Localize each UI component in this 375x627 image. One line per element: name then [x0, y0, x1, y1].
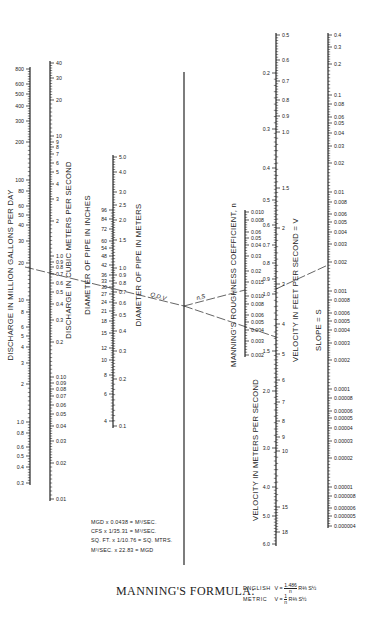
tick-label: 0.0005 — [334, 318, 350, 324]
tick-label: 0.4 — [17, 464, 24, 470]
tick-label: 8 — [21, 309, 24, 315]
tick-label: 0.004 — [334, 229, 347, 235]
conversion-note: M³/SEC. x 22.83 = MGD — [91, 546, 172, 555]
tick-label: 0.00004 — [334, 425, 353, 431]
tick-label: 2.5 — [119, 202, 126, 208]
axis-title-diameter-in: DIAMETER OF PIPE IN INCHES — [83, 195, 92, 315]
tick-label: 0.0004 — [334, 327, 350, 333]
tick-label: 0.04 — [56, 423, 66, 429]
tick-label: 0.0001 — [334, 386, 350, 392]
tick-label: 2 — [282, 225, 285, 231]
tick-label: 2 — [56, 218, 59, 224]
tick-label: 0.4 — [263, 165, 270, 171]
tick-label: 20 — [56, 97, 62, 103]
tick-label: 0.05 — [56, 411, 66, 417]
tick-label: 10 — [18, 297, 24, 303]
tick-label: 20 — [18, 260, 24, 266]
tick-label: 0.2 — [56, 339, 63, 345]
tick-label: 0.000006 — [334, 505, 356, 511]
tick-label: 15 — [282, 504, 288, 510]
tick-label: 0.7 — [119, 289, 126, 295]
tick-label: 0.008 — [251, 301, 264, 307]
turning-label-qdv: Q,D,V — [150, 291, 168, 302]
formula-english-label: ENGLISH — [243, 584, 273, 593]
tick-label: 0.0003 — [334, 340, 350, 346]
tick-label: 0.2 — [263, 70, 270, 76]
axis-title-slope-s: SLOPE = S — [314, 309, 323, 351]
tick-label: 0.005 — [251, 319, 264, 325]
tick-label: 0.1 — [119, 423, 126, 429]
tick-label: 0.08 — [334, 101, 344, 107]
tick-label: 18 — [282, 529, 288, 535]
tick-label: 0.3 — [119, 348, 126, 354]
tick-label: 0.6 — [263, 222, 270, 228]
tick-label: 48 — [101, 253, 107, 259]
tick-label: 0.2 — [119, 376, 126, 382]
tick-label: 0.04 — [334, 130, 344, 136]
axis-title-roughness-n: MANNING'S ROUGHNESS COEFFICIENT, n — [229, 203, 238, 367]
tick-label: 80 — [18, 188, 24, 194]
tick-label: 0.000004 — [334, 523, 356, 529]
tick-label: 0.03 — [334, 143, 344, 149]
formula-equations: ENGLISH V = 1.486n R⅔ S½ METRIC V = 1n R… — [243, 583, 316, 605]
tick-label: 0.0006 — [334, 310, 350, 316]
tick-label: 18 — [101, 318, 107, 324]
tick-label: 400 — [15, 103, 24, 109]
tick-label: 10 — [282, 448, 288, 454]
tick-label: 40 — [56, 60, 62, 66]
tick-label: 0.5 — [282, 32, 289, 38]
tick-label: 0.002 — [334, 259, 347, 265]
tick-label: 0.1 — [334, 92, 341, 98]
tick-label: 6 — [21, 324, 24, 330]
nomograph-canvas: 8006005004003002001008060504030201086543… — [0, 0, 375, 627]
conversion-note: MGD x 0.0438 = M³/SEC. — [91, 518, 172, 527]
tick-label: 0.8 — [282, 97, 289, 103]
tick-label: 0.7 — [282, 78, 289, 84]
tick-label: 0.000008 — [334, 493, 356, 499]
conversion-note: CFS x 1/35.31 = M³/SEC. — [91, 527, 172, 536]
tick-label: 72 — [101, 226, 107, 232]
axis-title-diameter-m: DIAMETER OF PIPE IN METERS — [134, 204, 143, 327]
formula-english-rhs: R⅔ S½ — [298, 585, 316, 591]
tick-label: 0.006 — [334, 211, 347, 217]
axis-title-discharge-mgd: DISCHARGE IN MILLION GALLONS PER DAY — [6, 189, 15, 360]
tick-label: 0.3 — [263, 126, 270, 132]
formula-english: ENGLISH V = 1.486n R⅔ S½ — [243, 583, 316, 594]
formula-metric-lhs: V = — [275, 596, 283, 602]
tick-label: 0.4 — [119, 328, 126, 334]
tick-label: 300 — [15, 118, 24, 124]
tick-label: 4 — [282, 321, 285, 327]
formula-metric: METRIC V = 1n R⅔ S½ — [243, 594, 316, 605]
tick-label: 800 — [15, 66, 24, 72]
tick-label: 60 — [101, 238, 107, 244]
tick-label: 2.0 — [263, 388, 270, 394]
tick-label: 0.00003 — [334, 438, 353, 444]
tick-label: 6 — [282, 377, 285, 383]
tick-label: 0.00006 — [334, 408, 353, 414]
tick-label: 30 — [18, 238, 24, 244]
tick-label: 5 — [56, 169, 59, 175]
tick-label: 200 — [15, 139, 24, 145]
tick-label: 60 — [18, 203, 24, 209]
tick-label: 1.5 — [119, 237, 126, 243]
tick-label: 0.02 — [334, 160, 344, 166]
tick-label: 4.0 — [119, 169, 126, 175]
tick-label: 21 — [101, 308, 107, 314]
tick-label: 0.5 — [56, 289, 63, 295]
tick-label: 0.5 — [17, 453, 24, 459]
tick-label: 0.00005 — [334, 415, 353, 421]
tick-label: 0.8 — [17, 430, 24, 436]
tick-label: 0.3 — [17, 480, 24, 486]
tick-label: 0.005 — [334, 219, 347, 225]
tick-label: 4 — [56, 181, 59, 187]
tick-label: 0.03 — [56, 438, 66, 444]
tick-label: 50 — [18, 212, 24, 218]
formula-metric-label: METRIC — [243, 595, 273, 604]
tick-label: 8 — [56, 144, 59, 150]
tick-label: 0.04 — [251, 242, 261, 248]
tick-label: 0.8 — [56, 264, 63, 270]
tick-label: 0.0002 — [334, 357, 350, 363]
tick-label: 1.5 — [263, 348, 270, 354]
formula-label: MANNING'S FORMULA: — [116, 584, 255, 598]
tick-label: 0.06 — [56, 402, 66, 408]
